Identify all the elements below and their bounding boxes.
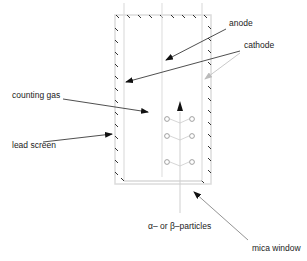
cathode	[124, 3, 202, 180]
leader-arrows	[43, 29, 248, 240]
lead-screen	[115, 15, 211, 184]
cathode-arrow-left	[126, 51, 240, 82]
particle-track	[177, 101, 183, 213]
label-particles: α– or β–particles	[148, 221, 211, 231]
mica-window-arrow	[194, 192, 248, 240]
label-anode: anode	[229, 18, 253, 28]
label-lead-screen: lead screen	[12, 140, 56, 150]
label-counting-gas: counting gas	[12, 90, 60, 100]
label-mica-window: mica window	[252, 243, 301, 253]
anode-arrow	[166, 29, 226, 60]
label-cathode: cathode	[244, 40, 274, 50]
counting-gas-arrow	[63, 99, 148, 112]
